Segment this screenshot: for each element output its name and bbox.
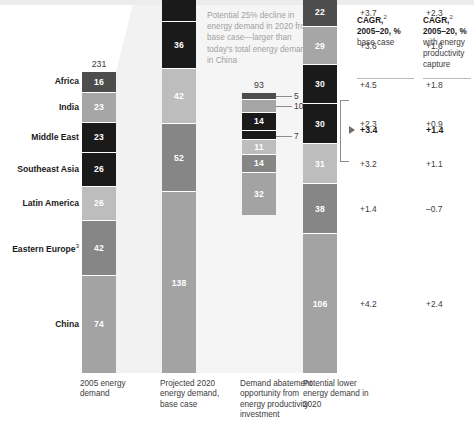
region-row-labels: AfricaIndiaMiddle EastSoutheast AsiaLati…	[0, 0, 79, 430]
row-label-text: Southeast Asia	[17, 164, 79, 174]
x-caption-1: 2005 energy demand	[80, 379, 150, 400]
cagr-row-value: –0.7	[426, 204, 442, 214]
row-label-text: Middle East	[31, 132, 79, 142]
bar-segment: 29	[303, 27, 337, 65]
leader-line	[276, 96, 292, 97]
row-label-middle-east: Middle East	[31, 132, 79, 142]
column-total-label: 231	[82, 59, 116, 69]
bar-segment: 22	[303, 0, 337, 27]
cagr-row-value: +4.2	[360, 299, 377, 309]
leader-value-label: 5	[294, 91, 299, 101]
total-range-bracket	[340, 100, 354, 162]
cagr-row-value: +2.3	[360, 119, 377, 129]
bar-column-4: 222930303138106	[303, 0, 337, 373]
row-label-eastern-europe: Eastern Europe3	[12, 243, 79, 254]
bar-segment: 14	[242, 113, 276, 131]
bar-segment: 106	[303, 234, 337, 373]
x-caption-4: Potential lower energy demand in 2020	[303, 379, 373, 410]
bracket-bottom-tick	[340, 161, 349, 162]
bar-segment: 30	[303, 65, 337, 104]
bar-segment: 38	[303, 184, 337, 234]
bar-segment: 31	[303, 144, 337, 185]
bar-segment: 30	[303, 104, 337, 143]
bar-segment: 26	[82, 153, 116, 187]
bar-segment	[242, 100, 276, 113]
row-label-text: China	[55, 319, 79, 329]
bracket-arrow-icon	[349, 126, 355, 134]
leader-value-label: 7	[294, 131, 299, 141]
bracket-top-tick	[340, 100, 349, 101]
row-label-text: Eastern Europe	[12, 243, 76, 253]
row-label-text: India	[59, 102, 79, 112]
bar-segment: 26	[82, 187, 116, 221]
bar-column-2: 272945364252138	[162, 0, 196, 373]
cagr-row-value: +3.6	[360, 41, 377, 51]
bar-segment: 16	[82, 72, 116, 93]
row-label-footnote: 3	[76, 243, 79, 249]
cagr-row-value: +1.4	[360, 204, 377, 214]
leader-value-label: 10	[294, 101, 303, 111]
bar-segment: 32	[242, 173, 276, 215]
bar-segment	[242, 131, 276, 140]
bar-segment: 45	[162, 0, 196, 22]
bracket-vertical	[340, 100, 341, 162]
row-label-africa: Africa	[55, 76, 79, 86]
leader-line	[276, 136, 292, 137]
cagr-row-value: +2.3	[426, 8, 443, 18]
bar-segment: 14	[242, 155, 276, 173]
row-label-text: Africa	[55, 76, 79, 86]
x-caption-2: Projected 2020 energy demand, base case	[160, 379, 230, 410]
cagr-row-value: +4.5	[360, 80, 377, 90]
bar-column-1: 16232326264274	[82, 72, 116, 373]
cagr-row-value: +3.7	[360, 8, 377, 18]
cagr-row-value: +0.9	[426, 119, 443, 129]
cagr-row-value: +1.6	[426, 41, 443, 51]
bar-segment: 11	[242, 140, 276, 154]
bar-segment: 138	[162, 192, 196, 373]
bar-segment: 42	[162, 69, 196, 124]
bar-segment: 42	[82, 221, 116, 276]
bar-segment: 74	[82, 276, 116, 373]
cagr-row-value: +3.2	[360, 159, 377, 169]
column-total-label: 93	[242, 80, 276, 90]
cagr-row-value: +1.8	[426, 80, 443, 90]
row-label-china: China	[55, 319, 79, 329]
row-label-latin-america: Latin America	[22, 198, 79, 208]
cagr-row-value: +1.1	[426, 159, 443, 169]
connector-band	[116, 0, 162, 373]
bar-segment: 23	[82, 93, 116, 123]
bar-column-3: 14111432	[242, 93, 276, 215]
bar-segment: 23	[82, 123, 116, 153]
leader-line	[276, 106, 292, 107]
row-label-southeast-asia: Southeast Asia	[17, 164, 79, 174]
row-label-text: Latin America	[22, 198, 79, 208]
cagr-row-value: +2.4	[426, 299, 443, 309]
bar-segment: 36	[162, 22, 196, 69]
bar-segment: 52	[162, 124, 196, 192]
row-label-india: India	[59, 102, 79, 112]
